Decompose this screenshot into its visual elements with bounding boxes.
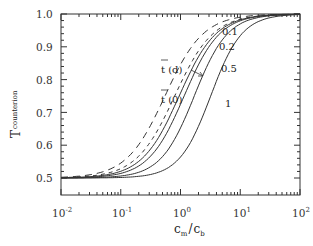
y-axis-label: Tcounterion [9, 90, 23, 138]
y-tick-0.9: 0.9 [36, 41, 53, 53]
x-tick-1e2: 102 [292, 206, 310, 219]
svg-text:10-2: 10-2 [52, 206, 72, 219]
label-t0: t (0) [161, 90, 182, 105]
label-0.2: 0.2 [219, 41, 235, 52]
svg-text:t (d): t (d) [161, 64, 183, 75]
y-tick-0.5: 0.5 [36, 172, 53, 184]
svg-text:100: 100 [173, 206, 191, 219]
y-tick-0.6: 0.6 [36, 139, 53, 151]
label-0.1: 0.1 [222, 26, 238, 37]
x-axis-label: cm/cb [174, 222, 205, 238]
x-tick-1e1: 101 [233, 206, 251, 219]
x-tick-1e-2: 10-2 [52, 206, 72, 219]
x-tick-1e0: 100 [173, 206, 191, 219]
x-tick-1e-1: 10-1 [112, 206, 132, 219]
svg-text:101: 101 [233, 206, 251, 219]
chart: 0.5 0.6 0.7 0.8 0.9 1.0 10-2 10-1 100 10… [0, 0, 313, 246]
y-tick-0.7: 0.7 [36, 107, 53, 119]
label-0.5: 0.5 [221, 63, 237, 74]
label-td: t (d) [160, 60, 192, 75]
svg-text:t (0): t (0) [161, 94, 182, 105]
svg-text:102: 102 [292, 206, 310, 219]
label-1: 1 [225, 98, 231, 109]
svg-text:10-1: 10-1 [112, 206, 132, 219]
y-tick-1.0: 1.0 [36, 8, 53, 20]
y-tick-0.8: 0.8 [36, 74, 53, 86]
